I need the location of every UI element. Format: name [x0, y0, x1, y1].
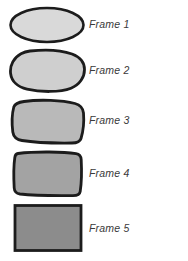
frame-4-path	[14, 152, 82, 196]
frame-2-label: Frame 2	[89, 65, 130, 76]
frame-1-shape	[6, 4, 88, 46]
frame-3-label: Frame 3	[89, 115, 130, 126]
frame-5-shape	[6, 201, 90, 255]
frame-2-shape	[6, 47, 90, 95]
rectangle-shape-icon	[6, 201, 90, 255]
frame-3-shape	[6, 96, 90, 146]
rounded-square-blob-shape-icon	[6, 96, 90, 146]
shape-morph-figure: Frame 1 Frame 2 Frame 3 Frame 4 Frame 5	[0, 0, 188, 261]
frame-5-label: Frame 5	[89, 223, 130, 234]
frame-3-path	[12, 100, 83, 143]
frame-5-rect	[15, 206, 81, 251]
frame-4-label: Frame 4	[89, 168, 130, 179]
frame-2-path	[10, 50, 84, 91]
frame-4-shape	[6, 147, 90, 199]
frame-1-ellipse	[11, 8, 84, 42]
frame-1-label: Frame 1	[89, 19, 130, 30]
rounded-blob-shape-icon	[6, 47, 90, 95]
soft-rectangle-shape-icon	[6, 147, 90, 199]
ellipse-shape-icon	[6, 4, 88, 46]
